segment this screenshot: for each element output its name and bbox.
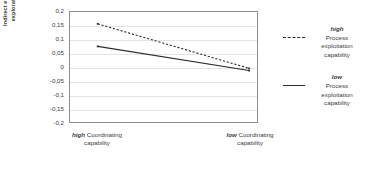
y-tick-label: 0 [30, 64, 64, 70]
y-tick-label: -0,2 [30, 120, 64, 126]
y-axis-title-line-1: Indirect effect of process [2, 0, 10, 44]
x-tick-text-line2: capability [51, 139, 143, 147]
legend-swatch-dashed-line-icon [283, 33, 305, 43]
plot-area [69, 11, 258, 123]
legend-word: Process [307, 34, 367, 43]
legend: high Processexploitationcapabilitylow Pr… [283, 25, 367, 122]
legend-line3: capability [307, 51, 367, 60]
x-tick-level: high [72, 131, 87, 138]
legend-line3: capability [307, 99, 367, 108]
y-tick-label: -0,05 [30, 78, 64, 84]
data-point-marker [248, 67, 250, 69]
x-tick-label-low: low Coordinatingcapability [204, 131, 296, 148]
y-tick-label: 0,15 [30, 22, 64, 28]
x-tick-text: Coordinating [87, 131, 122, 138]
data-point-marker [97, 45, 99, 47]
legend-level: high [307, 25, 367, 34]
legend-level: low [307, 73, 367, 82]
series-line-low [98, 46, 249, 70]
legend-label: low Processexploitationcapability [305, 73, 367, 107]
legend-swatch-solid-line-icon [283, 81, 305, 91]
x-tick-level: low [226, 131, 238, 138]
legend-line2: exploitation [307, 42, 367, 51]
y-axis-tick-labels: 0,20,150,10,050-0,05-0,1-0,15-0,2 [30, 6, 64, 128]
series-layer [70, 12, 257, 122]
data-point-marker [97, 23, 99, 25]
y-tick-label: 0,2 [30, 8, 64, 14]
legend-line-glyph [283, 85, 305, 86]
legend-line2: exploitation [307, 91, 367, 100]
y-axis-title: Indirect effect of process exploration c… [2, 0, 32, 44]
y-tick-label: -0,1 [30, 92, 64, 98]
y-tick-label: 0,05 [30, 50, 64, 56]
data-point-marker [248, 70, 250, 72]
x-tick-label-high: high Coordinatingcapability [51, 131, 143, 148]
interaction-plot-figure: Indirect effect of process exploration c… [0, 0, 369, 170]
y-tick-label: -0,15 [30, 106, 64, 112]
legend-line-glyph [283, 37, 305, 38]
y-axis-title-line-2: exploration capability [10, 0, 18, 44]
legend-label: high Processexploitationcapability [305, 25, 367, 59]
legend-entry-low[interactable]: low Processexploitationcapability [283, 73, 367, 107]
legend-word: Process [307, 82, 367, 91]
x-axis-tick-labels: high Coordinatingcapabilitylow Coordinat… [69, 131, 258, 157]
y-tick-label: 0,1 [30, 36, 64, 42]
x-tick-text-line2: capability [204, 139, 296, 147]
legend-entry-high[interactable]: high Processexploitationcapability [283, 25, 367, 59]
x-tick-text: Coordinating [238, 131, 273, 138]
series-line-high [98, 24, 249, 69]
